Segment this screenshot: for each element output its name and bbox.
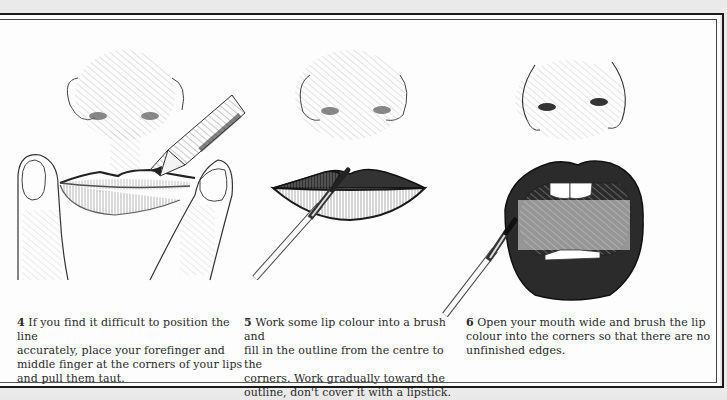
- caption-step-4-line-3: middle finger at the corners of your lip…: [17, 358, 247, 372]
- caption-step-5-line-2: fill in the outline from the centre to t…: [244, 344, 464, 372]
- illustration-step-5: [240, 40, 460, 280]
- caption-step-5-line-1: 5 Work some lip colour into a brush and: [244, 316, 464, 344]
- illustration-step-6: [440, 40, 670, 320]
- frame-border-right: [722, 13, 724, 388]
- caption-step-4: 4 If you find it difficult to position t…: [17, 316, 247, 386]
- frame-inner-border-right: [716, 19, 717, 383]
- caption-text: Open your mouth wide and brush the lip: [477, 316, 705, 329]
- caption-step-5: 5 Work some lip colour into a brush and …: [244, 316, 464, 400]
- caption-step-6: 6 Open your mouth wide and brush the lip…: [466, 316, 716, 358]
- step-number-6: 6: [466, 316, 474, 329]
- caption-step-4-line-2: accurately, place your forefinger and: [17, 344, 247, 358]
- caption-text: Work some lip colour into a brush and: [244, 316, 446, 343]
- caption-step-6-line-1: 6 Open your mouth wide and brush the lip: [466, 316, 716, 330]
- frame-border-top: [0, 13, 724, 15]
- caption-step-5-line-3: corners. Work gradually toward the: [244, 372, 464, 386]
- caption-step-4-line-1: 4 If you find it difficult to position t…: [17, 316, 247, 344]
- caption-step-5-line-4: outline, don't cover it with a lipstick.: [244, 386, 464, 400]
- caption-text: If you find it difficult to position the…: [17, 316, 230, 343]
- step-number-5: 5: [244, 316, 252, 329]
- caption-step-6-line-3: unfinished edges.: [466, 344, 716, 358]
- illustration-step-4: [0, 20, 250, 282]
- caption-step-4-line-4: and pull them taut.: [17, 372, 247, 386]
- caption-step-6-line-2: colour into the corners so that there ar…: [466, 330, 716, 344]
- step-number-4: 4: [17, 316, 25, 329]
